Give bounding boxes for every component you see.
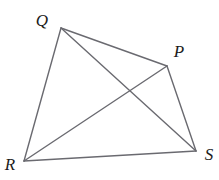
geometry-figure: Q P S R (0, 0, 219, 180)
figure-canvas (0, 0, 219, 180)
vertex-label-R: R (5, 156, 15, 173)
vertex-label-P: P (174, 43, 184, 60)
edge-SR (24, 151, 196, 161)
edge-QP (61, 28, 167, 66)
edge-RQ (24, 28, 61, 161)
diagonal-RP (24, 66, 167, 161)
vertex-label-Q: Q (36, 12, 48, 29)
vertex-label-S: S (205, 146, 214, 163)
